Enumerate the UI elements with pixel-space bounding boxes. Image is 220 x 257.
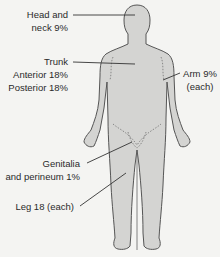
label-leg-line1: Leg 18 (each) bbox=[15, 200, 74, 213]
label-head: Head and neck 9% bbox=[27, 8, 68, 34]
label-arm-line2: (each) bbox=[180, 80, 220, 93]
label-trunk-line1: Trunk bbox=[8, 55, 68, 68]
label-arm: Arm 9% (each) bbox=[180, 67, 220, 93]
label-genitalia-line2: and perineum 1% bbox=[6, 170, 80, 183]
label-genitalia-line1: Genitalia bbox=[6, 157, 80, 170]
label-trunk: Trunk Anterior 18% Posterior 18% bbox=[8, 55, 68, 94]
body-figure bbox=[0, 0, 220, 257]
label-arm-line1: Arm 9% bbox=[180, 67, 220, 80]
label-genitalia: Genitalia and perineum 1% bbox=[6, 157, 80, 183]
label-trunk-line2: Anterior 18% bbox=[8, 68, 68, 81]
label-head-line2: neck 9% bbox=[27, 21, 68, 34]
label-head-line1: Head and bbox=[27, 8, 68, 21]
label-leg: Leg 18 (each) bbox=[15, 200, 74, 213]
label-trunk-line3: Posterior 18% bbox=[8, 81, 68, 94]
